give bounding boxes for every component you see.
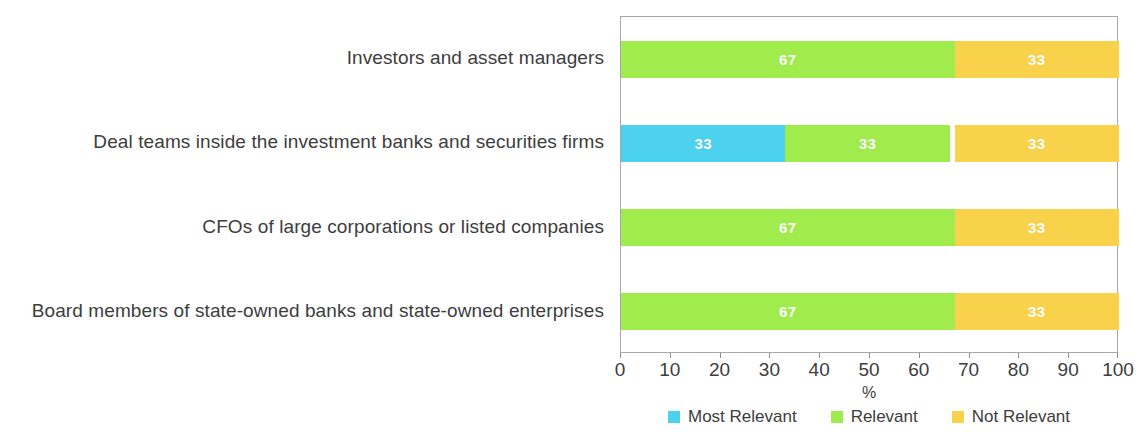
x-tick-mark — [869, 353, 870, 358]
x-tick-label: 50 — [858, 359, 879, 381]
category-label: Board members of state-owned banks and s… — [32, 301, 604, 320]
bar-row: 6733 — [621, 41, 1117, 78]
chart-legend: Most RelevantRelevantNot Relevant — [620, 406, 1118, 428]
x-tick-mark — [919, 353, 920, 358]
x-tick-label: 80 — [1008, 359, 1029, 381]
x-tick-label: 0 — [615, 359, 626, 381]
bar-value-label: 67 — [779, 219, 797, 236]
bar-row: 6733 — [621, 209, 1117, 246]
bars-container: 673333333367336733 — [621, 17, 1117, 352]
x-axis-title: % — [862, 384, 876, 402]
bar-value-label: 33 — [1028, 135, 1046, 152]
bar-value-label: 67 — [779, 51, 797, 68]
bar-segment: 33 — [955, 293, 1119, 330]
bar-segment: 33 — [955, 125, 1119, 162]
stacked-bar-chart: Investors and asset managersDeal teams i… — [0, 0, 1143, 432]
bar-segment: 33 — [785, 125, 949, 162]
category-label: Investors and asset managers — [347, 48, 604, 67]
legend-swatch-icon — [952, 411, 964, 423]
bar-segment: 33 — [621, 125, 785, 162]
x-axis: % 0102030405060708090100 — [620, 353, 1118, 399]
x-tick-mark — [1117, 353, 1118, 358]
bar-segment: 33 — [955, 209, 1119, 246]
bar-segment: 33 — [955, 41, 1119, 78]
bar-segment: 67 — [621, 293, 955, 330]
legend-item[interactable]: Most Relevant — [668, 407, 797, 427]
legend-label: Not Relevant — [972, 407, 1070, 427]
category-axis-labels: Investors and asset managersDeal teams i… — [0, 16, 612, 353]
category-label: Deal teams inside the investment banks a… — [93, 132, 604, 151]
bar-value-label: 67 — [779, 303, 797, 320]
legend-item[interactable]: Not Relevant — [952, 407, 1070, 427]
x-tick-label: 20 — [709, 359, 730, 381]
x-tick-label: 90 — [1058, 359, 1079, 381]
x-tick-mark — [969, 353, 970, 358]
x-tick-label: 60 — [908, 359, 929, 381]
x-tick-mark — [819, 353, 820, 358]
x-tick-mark — [670, 353, 671, 358]
legend-item[interactable]: Relevant — [831, 407, 918, 427]
plot-area: 673333333367336733 — [620, 16, 1118, 353]
bar-row: 333333 — [621, 125, 1117, 162]
legend-swatch-icon — [831, 411, 843, 423]
bar-value-label: 33 — [859, 135, 877, 152]
bar-value-label: 33 — [1028, 219, 1046, 236]
x-tick-label: 100 — [1102, 359, 1134, 381]
bar-segment: 67 — [621, 41, 955, 78]
legend-label: Relevant — [851, 407, 918, 427]
x-tick-mark — [1068, 353, 1069, 358]
x-tick-mark — [720, 353, 721, 358]
x-tick-mark — [769, 353, 770, 358]
x-tick-mark — [620, 353, 621, 358]
x-tick-label: 10 — [659, 359, 680, 381]
legend-swatch-icon — [668, 411, 680, 423]
legend-label: Most Relevant — [688, 407, 797, 427]
bar-row: 6733 — [621, 293, 1117, 330]
bar-segment: 67 — [621, 209, 955, 246]
x-tick-label: 70 — [958, 359, 979, 381]
category-label: CFOs of large corporations or listed com… — [202, 217, 604, 236]
x-tick-mark — [1018, 353, 1019, 358]
x-tick-label: 40 — [809, 359, 830, 381]
bar-value-label: 33 — [1028, 303, 1046, 320]
x-tick-label: 30 — [759, 359, 780, 381]
bar-value-label: 33 — [1028, 51, 1046, 68]
bar-value-label: 33 — [694, 135, 712, 152]
